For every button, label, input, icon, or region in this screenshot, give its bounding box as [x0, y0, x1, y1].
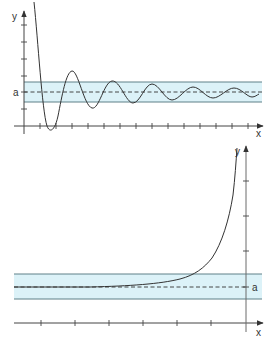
top-a-label: a — [13, 87, 19, 98]
bottom-a-label: a — [252, 282, 258, 293]
bottom-x-label: x — [256, 327, 261, 338]
bottom-y-label: y — [235, 146, 240, 157]
top-y-label: y — [12, 11, 17, 22]
bottom-rising-curve — [14, 148, 237, 287]
limit-diagrams: y x a y x a — [0, 0, 273, 348]
bottom-graph: y x a — [14, 146, 263, 338]
top-graph: y x a — [12, 2, 263, 139]
top-damped-curve — [34, 2, 259, 130]
top-x-label: x — [256, 128, 261, 139]
